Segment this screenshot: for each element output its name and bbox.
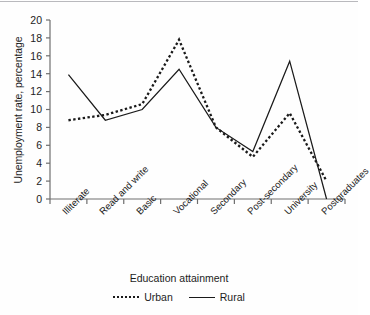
y-tick-label: 0 [36, 193, 42, 205]
chart-legend: Urban Rural [0, 291, 358, 303]
legend-item-urban: Urban [113, 291, 173, 303]
y-tick-label: 8 [36, 121, 42, 133]
y-tick-label: 14 [30, 68, 42, 80]
series-line-urban [68, 40, 326, 181]
legend-label-urban: Urban [144, 291, 173, 303]
y-tick-label: 6 [36, 139, 42, 151]
y-tick-label: 10 [30, 103, 42, 115]
y-tick-label: 16 [30, 50, 42, 62]
y-axis-ticks: 02468101214161820 [30, 14, 50, 205]
legend-item-rural: Rural [189, 291, 245, 303]
legend-label-rural: Rural [220, 291, 245, 303]
legend-swatch-rural-solid-icon [189, 297, 215, 298]
y-tick-label: 20 [30, 14, 42, 26]
legend-swatch-urban-dotted-icon [113, 296, 139, 298]
x-axis-label: Education attainment [0, 272, 358, 284]
y-tick-label: 4 [36, 157, 42, 169]
y-tick-label: 18 [30, 32, 42, 44]
y-tick-label: 2 [36, 175, 42, 187]
y-tick-label: 12 [30, 85, 42, 97]
